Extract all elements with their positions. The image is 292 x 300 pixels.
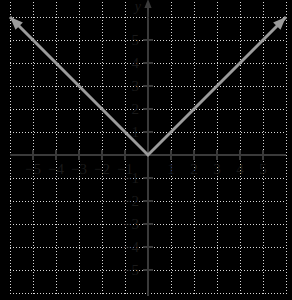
y-tick-label: −5 — [123, 262, 139, 278]
y-tick-label: 4 — [132, 55, 140, 71]
graph-canvas: −5−4−3−2−11234554321−1−2−3−4−5 y — [0, 0, 292, 300]
y-tick-label: 3 — [132, 78, 140, 94]
y-axis-name-label: y — [133, 0, 142, 14]
x-tick-label: −5 — [25, 161, 41, 177]
y-tick-label: −2 — [123, 193, 139, 209]
x-tick-label: −2 — [94, 161, 110, 177]
x-tick-label: −3 — [71, 161, 87, 177]
figure-background — [0, 0, 292, 300]
y-tick-label: −3 — [123, 216, 139, 232]
x-tick-label: 5 — [259, 161, 267, 177]
y-tick-label: 2 — [132, 101, 140, 117]
coordinate-plane-figure: −5−4−3−2−11234554321−1−2−3−4−5 y — [0, 0, 292, 300]
y-tick-label: −1 — [123, 170, 139, 186]
y-tick-label: 5 — [132, 32, 140, 48]
x-tick-label: −4 — [48, 161, 64, 177]
x-tick-label: 2 — [190, 161, 198, 177]
x-tick-label: 1 — [167, 161, 175, 177]
axis-name-labels: y — [133, 0, 142, 14]
x-tick-label: 4 — [236, 161, 244, 177]
y-tick-label: −4 — [123, 239, 139, 255]
x-tick-label: 3 — [213, 161, 221, 177]
